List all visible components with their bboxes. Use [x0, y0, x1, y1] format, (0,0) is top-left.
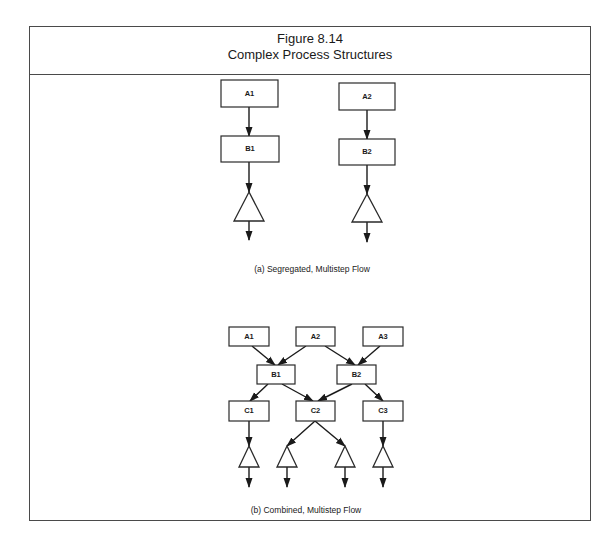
flow-arrow	[365, 384, 383, 401]
process-label: C3	[378, 406, 388, 415]
inventory-triangle-icon	[335, 446, 355, 467]
flow-arrow	[287, 421, 315, 446]
flow-arrow	[318, 384, 352, 401]
inventory-triangle-icon	[239, 446, 259, 467]
process-label: C1	[244, 406, 254, 415]
process-label: C2	[311, 406, 321, 415]
flow-arrow	[325, 346, 355, 365]
process-label: B2	[362, 147, 372, 156]
process-label: A3	[378, 332, 388, 341]
process-node-c1: C1	[229, 401, 269, 421]
process-label: A2	[362, 92, 372, 101]
process-node-b2: B2	[339, 139, 395, 165]
process-node-b2: B2	[337, 365, 376, 384]
flow-arrow	[250, 384, 268, 401]
inventory-triangle-icon	[352, 194, 382, 222]
process-node-b1: B1	[221, 136, 279, 162]
inventory-triangle-icon	[373, 446, 393, 467]
process-node-a3: A3	[363, 327, 403, 346]
combined-flow-diagram: A1A2A3B1B2C1C2C3(b) Combined, Multistep …	[229, 327, 403, 515]
process-node-c3: C3	[363, 401, 403, 421]
flow-arrow	[315, 421, 345, 446]
diagram-caption: (b) Combined, Multistep Flow	[251, 505, 362, 515]
flow-arrow	[252, 346, 275, 365]
flow-arrow	[278, 346, 306, 365]
segregated-flow-diagram: A1B1A2B2(a) Segregated, Multistep Flow	[221, 80, 395, 274]
inventory-triangle-icon	[234, 192, 264, 221]
process-node-a2: A2	[339, 83, 395, 110]
process-structure-diagram: A1B1A2B2(a) Segregated, Multistep Flow A…	[0, 0, 616, 545]
process-node-b1: B1	[257, 365, 295, 384]
process-node-c2: C2	[296, 401, 335, 421]
inventory-triangle-icon	[277, 446, 297, 467]
process-label: A1	[244, 332, 254, 341]
process-label: A1	[245, 89, 255, 98]
diagram-caption: (a) Segregated, Multistep Flow	[254, 264, 371, 274]
process-node-a1: A1	[229, 327, 269, 346]
process-label: B1	[245, 144, 255, 153]
process-node-a1: A1	[221, 80, 278, 107]
process-label: B2	[352, 370, 362, 379]
process-label: A2	[311, 332, 321, 341]
process-label: B1	[271, 370, 281, 379]
process-node-a2: A2	[296, 327, 335, 346]
flow-arrow	[282, 384, 313, 401]
flow-arrow	[358, 346, 380, 365]
